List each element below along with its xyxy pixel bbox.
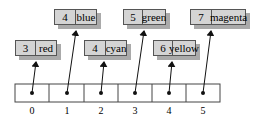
node-value: red bbox=[35, 40, 57, 56]
node-value: green bbox=[142, 9, 166, 25]
list-node: 7 magenta bbox=[190, 9, 246, 25]
node-key: 3 bbox=[15, 40, 36, 56]
list-node: 4 cyan bbox=[84, 40, 127, 56]
list-node: 3 red bbox=[15, 40, 57, 56]
array-index: 5 bbox=[198, 105, 208, 116]
node-value: magenta bbox=[211, 9, 246, 25]
node-key: 4 bbox=[54, 9, 76, 25]
array-index: 0 bbox=[27, 105, 37, 116]
node-key: 5 bbox=[123, 9, 143, 25]
array-index: 2 bbox=[96, 105, 106, 116]
node-key: 7 bbox=[190, 9, 212, 25]
list-node: 6 yellow bbox=[153, 40, 196, 56]
node-value: yellow bbox=[172, 40, 196, 56]
array-index: 4 bbox=[164, 105, 174, 116]
pointer-array-diagram: 3 red 4 blue 4 cyan 5 green 6 yellow 7 m… bbox=[0, 0, 267, 122]
array-index: 1 bbox=[62, 105, 72, 116]
node-key: 4 bbox=[84, 40, 106, 56]
node-value: cyan bbox=[105, 40, 127, 56]
array-index: 3 bbox=[130, 105, 140, 116]
list-node: 4 blue bbox=[54, 9, 97, 25]
list-node: 5 green bbox=[123, 9, 166, 25]
node-value: blue bbox=[75, 9, 97, 25]
